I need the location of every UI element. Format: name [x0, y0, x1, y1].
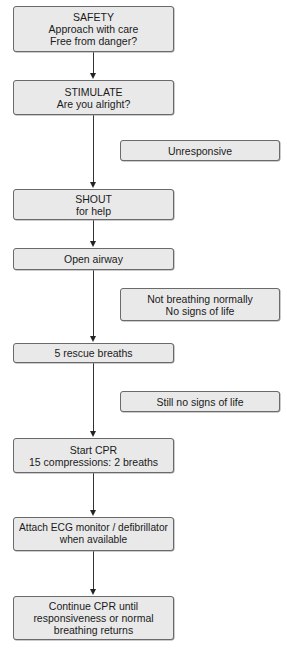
- step-text: breathing returns: [54, 624, 133, 636]
- connector-safety-stimulate: [93, 52, 94, 74]
- connector-cpr-ecg: [93, 473, 94, 511]
- connector-breaths-cpr: [93, 363, 94, 432]
- condition-still-no-signs: Still no signs of life: [120, 391, 280, 412]
- step-text: STIMULATE: [64, 86, 122, 98]
- step-text: Continue CPR until: [49, 600, 138, 612]
- step-text: for help: [76, 205, 111, 217]
- step-text: when available: [60, 534, 127, 546]
- arrow-head-icon: [90, 589, 96, 595]
- step-stimulate: STIMULATE Are you alright?: [13, 80, 174, 115]
- step-text: Approach with care: [49, 23, 139, 35]
- step-text: 5 rescue breaths: [54, 347, 132, 359]
- step-text: Attach ECG monitor / defibrillator: [19, 522, 168, 534]
- step-open-airway: Open airway: [13, 248, 174, 270]
- condition-text: Still no signs of life: [157, 396, 244, 408]
- step-text: 15 compressions: 2 breaths: [29, 456, 158, 468]
- connector-stimulate-shout: [93, 115, 94, 183]
- connector-shout-airway: [93, 220, 94, 242]
- arrow-head-icon: [90, 182, 96, 188]
- step-text: Start CPR: [70, 444, 117, 456]
- arrow-head-icon: [90, 336, 96, 342]
- step-text: Open airway: [64, 253, 123, 265]
- step-start-cpr: Start CPR 15 compressions: 2 breaths: [13, 438, 174, 473]
- condition-unresponsive: Unresponsive: [120, 140, 280, 161]
- condition-text: Not breathing normally: [147, 293, 253, 305]
- connector-ecg-continue: [93, 551, 94, 590]
- step-text: Are you alright?: [57, 98, 131, 110]
- condition-not-breathing: Not breathing normally No signs of life: [120, 288, 280, 321]
- arrow-head-icon: [90, 73, 96, 79]
- step-continue-cpr: Continue CPR until responsiveness or nor…: [13, 596, 174, 640]
- step-text: SAFETY: [73, 11, 114, 23]
- step-rescue-breaths: 5 rescue breaths: [13, 343, 174, 363]
- connector-airway-breaths: [93, 270, 94, 337]
- step-text: Free from danger?: [50, 35, 137, 47]
- arrow-head-icon: [90, 510, 96, 516]
- step-text: SHOUT: [75, 193, 112, 205]
- arrow-head-icon: [90, 241, 96, 247]
- step-attach-ecg: Attach ECG monitor / defibrillator when …: [13, 517, 174, 551]
- step-safety: SAFETY Approach with care Free from dang…: [13, 6, 174, 52]
- step-shout: SHOUT for help: [13, 189, 174, 220]
- condition-text: Unresponsive: [168, 145, 232, 157]
- step-text: responsiveness or normal: [33, 612, 153, 624]
- condition-text: No signs of life: [166, 305, 235, 317]
- arrow-head-icon: [90, 431, 96, 437]
